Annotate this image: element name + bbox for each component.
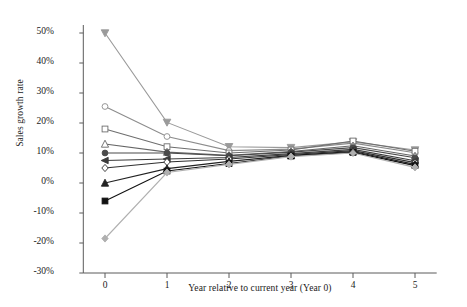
data-point xyxy=(102,164,108,171)
y-tick-label: -30% xyxy=(10,266,54,276)
chart-series-layer xyxy=(101,30,419,242)
series-decile-9 xyxy=(102,150,418,204)
data-point xyxy=(102,104,108,110)
data-point xyxy=(164,150,170,156)
series-decile-2 xyxy=(102,104,418,156)
x-axis-title: Year relative to current year (Year 0) xyxy=(100,283,420,293)
data-point xyxy=(101,140,108,147)
y-tick-label: 40% xyxy=(10,56,54,66)
y-axis-title: Sales growth rate xyxy=(15,67,25,159)
series-decile-3 xyxy=(102,126,418,156)
data-point xyxy=(102,126,108,132)
data-point xyxy=(102,198,108,204)
y-tick-label: -20% xyxy=(10,236,54,246)
data-point xyxy=(164,134,170,140)
series-decile-1-highest xyxy=(101,30,419,154)
data-point xyxy=(101,30,109,37)
data-point xyxy=(163,119,171,126)
data-point xyxy=(102,150,108,156)
data-point xyxy=(101,157,108,163)
chart-plot-area xyxy=(0,0,467,307)
y-tick-label: 0% xyxy=(10,176,54,186)
chart-figure: 50%40%30%20%10%0%-10%-20%-30% 012345 Sal… xyxy=(0,0,467,307)
y-tick-label: 50% xyxy=(10,26,54,36)
y-tick-label: -10% xyxy=(10,206,54,216)
